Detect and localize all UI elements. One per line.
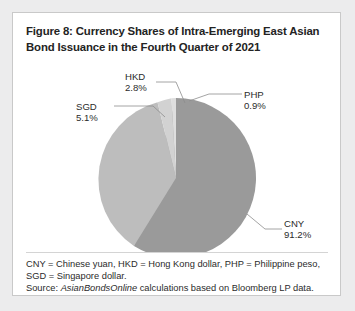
pie-label-php: PHP 0.9% xyxy=(244,89,266,112)
footnote-source-prefix: Source: xyxy=(26,283,61,293)
page-title: Figure 8: Currency Shares of Intra-Emerg… xyxy=(26,24,326,55)
pie-label-cny-value: 91.2% xyxy=(284,229,311,240)
pie-chart: HKD 2.8% SGD 5.1% PHP 0.9% CNY 91.2% xyxy=(13,57,340,253)
pie-label-cny-name: CNY xyxy=(284,218,311,229)
pie-label-sgd-name: SGD xyxy=(76,101,98,112)
figure-title-line-1: Figure 8: Currency Shares of Intra-Emerg… xyxy=(26,24,326,40)
leader-line-php xyxy=(189,94,242,101)
pie-label-hkd: HKD 2.8% xyxy=(125,71,147,94)
figure-footnote: CNY = Chinese yuan, HKD = Hong Kong doll… xyxy=(26,258,331,295)
footnote-source-suffix: calculations based on Bloomberg LP data. xyxy=(137,283,314,293)
footnote-abbreviations-line-2: SGD = Singapore dollar. xyxy=(26,270,331,282)
leader-line-cny xyxy=(247,214,282,229)
footnote-divider xyxy=(26,252,328,253)
pie-label-hkd-name: HKD xyxy=(125,71,147,82)
pie-label-php-value: 0.9% xyxy=(244,100,266,111)
footnote-source-publication: AsianBondsOnline xyxy=(61,283,138,293)
figure-title-line-2: Bond Issuance in the Fourth Quarter of 2… xyxy=(26,40,326,56)
footnote-source-line: Source: AsianBondsOnline calculations ba… xyxy=(26,282,331,294)
pie-label-sgd-value: 5.1% xyxy=(76,112,98,123)
pie-label-hkd-value: 2.8% xyxy=(125,82,147,93)
pie-label-cny: CNY 91.2% xyxy=(284,218,311,241)
pie-label-sgd: SGD 5.1% xyxy=(76,101,98,124)
pie-label-php-name: PHP xyxy=(244,89,266,100)
figure-container: Figure 8: Currency Shares of Intra-Emerg… xyxy=(12,12,341,296)
footnote-abbreviations-line-1: CNY = Chinese yuan, HKD = Hong Kong doll… xyxy=(26,258,331,270)
